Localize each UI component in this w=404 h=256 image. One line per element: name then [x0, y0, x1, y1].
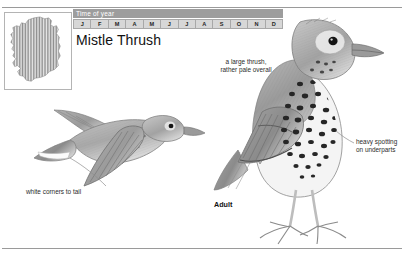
bird-illustrations	[0, 0, 404, 256]
annotation-line: on underparts	[356, 146, 404, 154]
annotation-heavy-spotting: heavy spotting on underparts	[356, 138, 404, 155]
flying-thrush-figure	[34, 110, 205, 186]
plate-caption-adult: Adult	[214, 200, 232, 209]
bird-feet	[260, 222, 346, 244]
annotation-white-corners: white corners to tail	[26, 188, 110, 196]
annotation-line: rather pale overall	[198, 66, 294, 74]
annotation-line: a large thrush,	[198, 58, 294, 66]
annotation-line: white corners to tail	[26, 188, 110, 196]
field-guide-page: Time of year J F M A M J J A S O N D Mis…	[0, 0, 404, 256]
annotation-line: heavy spotting	[356, 138, 404, 146]
bottom-divider	[2, 248, 402, 249]
annotation-large-pale: a large thrush, rather pale overall	[198, 58, 294, 75]
adult-thrush-figure	[214, 18, 384, 244]
bird-eye	[328, 37, 337, 45]
bird-eye-flight	[169, 124, 174, 128]
